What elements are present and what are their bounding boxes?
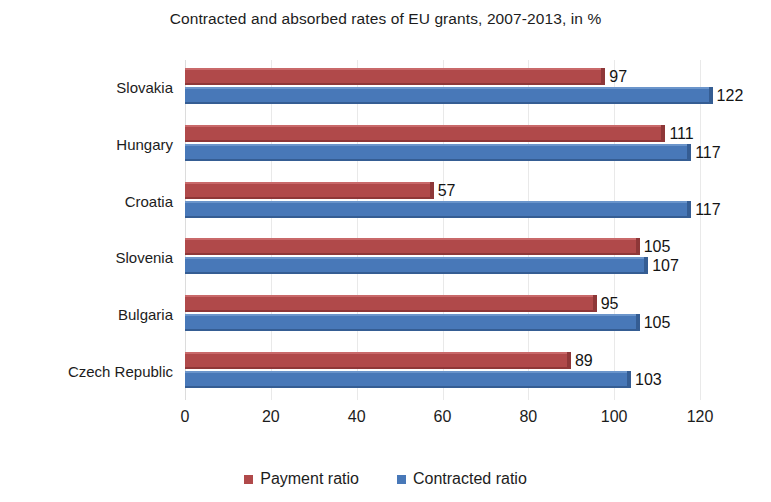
x-tick-label-100: 100 bbox=[601, 408, 628, 426]
value-label: 89 bbox=[575, 353, 593, 369]
bar-top bbox=[185, 201, 687, 203]
bar-top bbox=[185, 182, 430, 184]
chart-row: Slovenia105107 bbox=[185, 230, 700, 287]
bar-payment-ratio-slovakia bbox=[185, 68, 601, 85]
x-tick-label-40: 40 bbox=[348, 408, 366, 426]
bar-bot bbox=[185, 253, 636, 255]
x-tick-label-80: 80 bbox=[519, 408, 537, 426]
bar-contracted-ratio-bulgaria bbox=[185, 314, 636, 331]
legend-item-contracted-ratio[interactable]: Contracted ratio bbox=[397, 470, 527, 488]
bar-bot bbox=[185, 386, 627, 388]
value-label: 111 bbox=[669, 126, 693, 142]
bar-payment-ratio-slovenia bbox=[185, 238, 636, 255]
value-label: 95 bbox=[601, 296, 619, 312]
bar-top bbox=[185, 295, 593, 297]
bar-cap bbox=[661, 125, 665, 142]
chart-row: Slovakia97122 bbox=[185, 60, 700, 117]
bar-bot bbox=[185, 197, 430, 199]
bar-contracted-ratio-slovakia bbox=[185, 87, 709, 104]
bar-top bbox=[185, 68, 601, 70]
legend-label: Payment ratio bbox=[260, 470, 359, 488]
bar-cap bbox=[644, 257, 648, 274]
value-label: 105 bbox=[644, 315, 671, 331]
bar-bot bbox=[185, 310, 593, 312]
chart-title: Contracted and absorbed rates of EU gran… bbox=[0, 10, 771, 28]
bar-payment-ratio-hungary bbox=[185, 125, 661, 142]
value-label: 117 bbox=[695, 145, 721, 161]
bar-cap bbox=[709, 87, 713, 104]
chart-row: Czech Republic89103 bbox=[185, 343, 700, 400]
legend-label: Contracted ratio bbox=[413, 470, 527, 488]
bar-cap bbox=[687, 201, 691, 218]
bar-payment-ratio-croatia bbox=[185, 182, 430, 199]
bar-bot bbox=[185, 216, 687, 218]
x-tick-label-120: 120 bbox=[687, 408, 714, 426]
legend-item-payment-ratio[interactable]: Payment ratio bbox=[244, 470, 359, 488]
category-label-slovakia: Slovakia bbox=[116, 79, 173, 96]
bar-contracted-ratio-hungary bbox=[185, 144, 687, 161]
category-label-bulgaria: Bulgaria bbox=[118, 306, 173, 323]
bar-cap bbox=[593, 295, 597, 312]
bar-top bbox=[185, 314, 636, 316]
bar-cap bbox=[430, 182, 434, 199]
bar-top bbox=[185, 257, 644, 259]
value-label: 103 bbox=[635, 372, 662, 388]
legend-swatch-icon bbox=[244, 475, 253, 484]
value-label: 117 bbox=[695, 202, 721, 218]
value-label: 57 bbox=[438, 183, 456, 199]
bar-top bbox=[185, 352, 567, 354]
bar-cap bbox=[636, 238, 640, 255]
gridline-120 bbox=[700, 60, 701, 400]
bar-bot bbox=[185, 367, 567, 369]
x-axis: 020406080100120 bbox=[185, 402, 700, 428]
chart-row: Croatia57117 bbox=[185, 173, 700, 230]
bar-cap bbox=[567, 352, 571, 369]
chart-legend: Payment ratioContracted ratio bbox=[0, 466, 771, 492]
bar-bot bbox=[185, 329, 636, 331]
bar-top bbox=[185, 371, 627, 373]
bar-top bbox=[185, 87, 709, 89]
bar-bot bbox=[185, 102, 709, 104]
legend-swatch-icon bbox=[397, 475, 406, 484]
category-label-czech-republic: Czech Republic bbox=[68, 363, 173, 380]
bar-top bbox=[185, 144, 687, 146]
bar-bot bbox=[185, 272, 644, 274]
bar-cap bbox=[601, 68, 605, 85]
bar-contracted-ratio-czech-republic bbox=[185, 371, 627, 388]
value-label: 105 bbox=[644, 239, 671, 255]
value-label: 97 bbox=[609, 69, 627, 85]
bar-chart: Contracted and absorbed rates of EU gran… bbox=[0, 0, 771, 502]
category-label-hungary: Hungary bbox=[116, 136, 173, 153]
category-label-croatia: Croatia bbox=[125, 193, 173, 210]
bar-cap bbox=[627, 371, 631, 388]
bar-bot bbox=[185, 140, 661, 142]
x-tick-label-0: 0 bbox=[181, 408, 190, 426]
bar-bot bbox=[185, 83, 601, 85]
bar-bot bbox=[185, 159, 687, 161]
x-tick-label-60: 60 bbox=[434, 408, 452, 426]
bar-top bbox=[185, 125, 661, 127]
value-label: 122 bbox=[717, 88, 744, 104]
bar-payment-ratio-bulgaria bbox=[185, 295, 593, 312]
chart-row: Hungary111117 bbox=[185, 117, 700, 174]
value-label: 107 bbox=[652, 258, 679, 274]
chart-row: Bulgaria95105 bbox=[185, 287, 700, 344]
bar-top bbox=[185, 238, 636, 240]
bar-cap bbox=[687, 144, 691, 161]
bar-payment-ratio-czech-republic bbox=[185, 352, 567, 369]
x-tick-label-20: 20 bbox=[262, 408, 280, 426]
bar-cap bbox=[636, 314, 640, 331]
bar-contracted-ratio-croatia bbox=[185, 201, 687, 218]
bar-contracted-ratio-slovenia bbox=[185, 257, 644, 274]
category-label-slovenia: Slovenia bbox=[115, 249, 173, 266]
plot-area: Slovakia97122Hungary111117Croatia57117Sl… bbox=[185, 60, 700, 400]
